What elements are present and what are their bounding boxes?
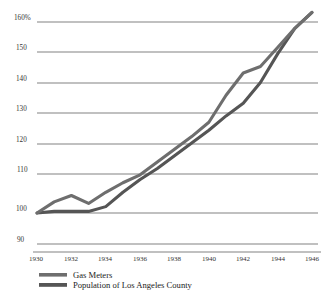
x-tick-label: 1936 [133,255,148,263]
legend-label-gas-meters: Gas Meters [73,270,113,280]
x-tick-label: 1938 [167,255,182,263]
y-tick-label: 140 [16,75,27,83]
legend-label-population: Population of Los Angeles County [73,280,193,290]
y-tick-label: 130 [16,105,27,113]
y-tick-label: 100 [16,205,27,213]
legend-swatch-population [39,283,67,287]
x-axis-labels: 1930 1932 1934 1936 1938 1940 1942 1944 … [29,255,320,263]
y-tick-label: 150 [16,44,27,52]
x-tick-label: 1942 [236,255,251,263]
y-tick-label: 110 [17,166,28,174]
x-tick-label: 1934 [98,255,113,263]
y-tick-label: 120 [16,136,27,144]
x-tick-label: 1932 [64,255,79,263]
chart-legend: Gas Meters Population of Los Angeles Cou… [39,270,193,290]
x-tick-label: 1944 [271,255,286,263]
x-tick-label: 1946 [305,255,320,263]
chart-container: 160% 150 140 130 120 110 100 90 1930 193… [0,0,325,294]
x-tick-label: 1940 [202,255,217,263]
y-axis-labels: 160% 150 140 130 120 110 100 90 [14,14,31,244]
y-tick-label: 90 [17,236,25,244]
y-tick-label: 160% [14,14,31,22]
line-chart: 160% 150 140 130 120 110 100 90 1930 193… [0,0,325,294]
x-tick-label: 1930 [29,255,44,263]
legend-swatch-gas-meters [39,273,67,277]
